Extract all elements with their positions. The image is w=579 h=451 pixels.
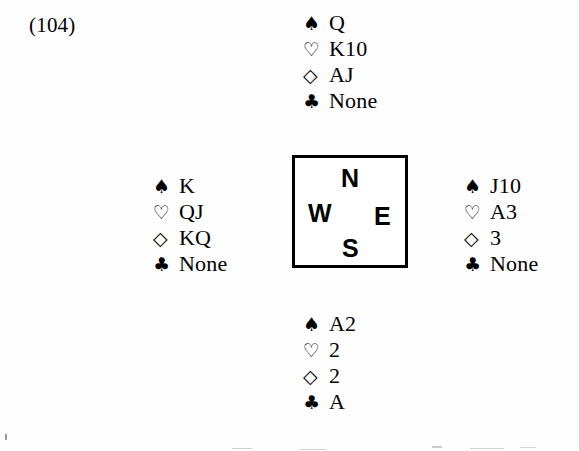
scan-artifact [432,446,442,448]
north-spade-cards: Q [329,10,345,36]
west-heart-row: ♡ QJ [153,199,227,225]
south-club-row: ♣ A [303,389,356,415]
west-diamond-row: ◇ KQ [153,225,227,251]
compass-west-label: W [308,201,332,226]
north-heart-row: ♡ K10 [303,36,377,62]
heart-icon: ♡ [153,199,179,225]
south-heart-cards: 2 [329,337,340,363]
south-club-cards: A [329,389,345,415]
west-heart-cards: QJ [179,199,204,225]
club-icon: ♣ [303,88,329,114]
west-spade-row: ♠ K [153,173,227,199]
bridge-hand-diagram: (104) ♠ Q ♡ K10 ◇ AJ ♣ None ♠ K ♡ QJ ◇ [0,0,579,451]
spade-icon: ♠ [303,10,329,36]
spade-icon: ♠ [153,173,179,199]
scan-artifact [470,448,504,449]
scan-artifact [232,448,252,449]
compass-north-label: N [341,166,359,191]
north-hand: ♠ Q ♡ K10 ◇ AJ ♣ None [303,10,377,114]
east-club-row: ♣ None [464,251,538,277]
east-heart-cards: A3 [490,199,517,225]
north-club-cards: None [329,88,377,114]
south-diamond-row: ◇ 2 [303,363,356,389]
west-diamond-cards: KQ [179,225,211,251]
west-club-cards: None [179,251,227,277]
south-diamond-cards: 2 [329,363,340,389]
spade-icon: ♠ [303,311,329,337]
west-spade-cards: K [179,173,195,199]
club-icon: ♣ [464,251,490,277]
club-icon: ♣ [153,251,179,277]
east-spade-row: ♠ J10 [464,173,538,199]
east-hand: ♠ J10 ♡ A3 ◇ 3 ♣ None [464,173,538,277]
north-spade-row: ♠ Q [303,10,377,36]
east-club-cards: None [490,251,538,277]
north-club-row: ♣ None [303,88,377,114]
diamond-icon: ◇ [303,62,329,88]
south-spade-row: ♠ A2 [303,311,356,337]
east-diamond-cards: 3 [490,225,501,251]
heart-icon: ♡ [303,36,329,62]
compass-east-label: E [374,204,391,229]
west-hand: ♠ K ♡ QJ ◇ KQ ♣ None [153,173,227,277]
south-hand: ♠ A2 ♡ 2 ◇ 2 ♣ A [303,311,356,415]
east-heart-row: ♡ A3 [464,199,538,225]
north-diamond-cards: AJ [329,62,354,88]
south-heart-row: ♡ 2 [303,337,356,363]
diamond-icon: ◇ [153,225,179,251]
east-spade-cards: J10 [490,173,521,199]
south-spade-cards: A2 [329,311,356,337]
north-heart-cards: K10 [329,36,368,62]
spade-icon: ♠ [464,173,490,199]
diamond-icon: ◇ [464,225,490,251]
west-club-row: ♣ None [153,251,227,277]
problem-number-label: (104) [29,13,76,37]
club-icon: ♣ [303,389,329,415]
scan-artifact [300,449,326,450]
heart-icon: ♡ [464,199,490,225]
diamond-icon: ◇ [303,363,329,389]
scan-artifact [520,447,536,448]
east-diamond-row: ◇ 3 [464,225,538,251]
compass-south-label: S [342,236,359,261]
compass-box: N W E S [292,155,408,268]
heart-icon: ♡ [303,337,329,363]
scan-artifact [5,434,7,440]
north-diamond-row: ◇ AJ [303,62,377,88]
